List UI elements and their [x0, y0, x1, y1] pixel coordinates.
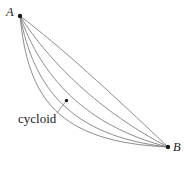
curve-path-5-cycloid	[20, 16, 168, 147]
curve-path-4	[20, 16, 168, 147]
cycloid-figure: A B cycloid	[0, 0, 189, 169]
curve-path-1	[20, 16, 168, 147]
figure-canvas	[0, 0, 189, 169]
endpoint-group	[18, 14, 170, 149]
cycloid-label: cycloid	[18, 112, 56, 125]
point-b-label: B	[173, 141, 181, 154]
cycloid-marker-dot	[65, 99, 68, 102]
point-a-label: A	[6, 6, 14, 19]
point-a-dot	[18, 14, 22, 18]
curve-group	[20, 16, 168, 147]
curve-path-3	[20, 16, 168, 147]
curve-path-2	[20, 16, 168, 147]
point-b-dot	[166, 145, 170, 149]
